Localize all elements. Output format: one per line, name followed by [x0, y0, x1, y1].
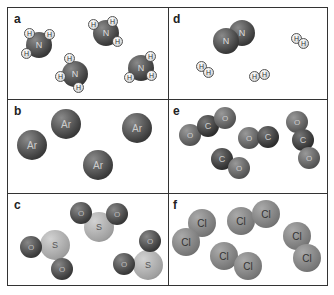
atom-h: H: [203, 67, 214, 78]
panel-label-c: c: [14, 198, 21, 212]
divider-horizontal-2: [8, 193, 327, 194]
atom-o: O: [214, 107, 236, 129]
atom-h: H: [107, 16, 118, 27]
atom-o: O: [113, 253, 135, 275]
atom-h: H: [145, 51, 156, 62]
atom-n: N: [213, 28, 239, 54]
atom-cl: Cl: [227, 207, 255, 235]
atom-cl: Cl: [234, 252, 262, 280]
atom-s: S: [133, 250, 163, 280]
atom-ar: Ar: [122, 113, 152, 143]
divider-vertical: [168, 8, 169, 285]
atom-o: O: [51, 258, 73, 280]
atom-o: O: [70, 202, 92, 224]
atom-cl: Cl: [172, 228, 200, 256]
panel-label-a: a: [14, 12, 21, 26]
atom-h: H: [112, 36, 123, 47]
panel-label-e: e: [173, 104, 180, 118]
atom-ar: Ar: [17, 130, 47, 160]
atom-h: H: [24, 28, 35, 39]
atom-o: O: [139, 230, 161, 252]
panel-label-d: d: [173, 12, 180, 26]
atom-o: O: [228, 157, 250, 179]
panel-label-f: f: [173, 198, 177, 212]
atom-h: H: [124, 72, 135, 83]
atom-h: H: [259, 69, 270, 80]
atom-s: S: [40, 230, 70, 260]
atom-h: H: [44, 29, 55, 40]
atom-h: H: [21, 48, 32, 59]
atom-ar: Ar: [83, 150, 113, 180]
divider-horizontal-1: [8, 99, 327, 100]
atom-h: H: [64, 53, 75, 64]
atom-c: C: [257, 126, 279, 148]
atom-h: H: [298, 38, 309, 49]
panel-label-b: b: [14, 104, 21, 118]
atom-cl: Cl: [252, 200, 280, 228]
atom-ar: Ar: [51, 109, 81, 139]
atom-h: H: [73, 82, 84, 93]
atom-h: H: [146, 70, 157, 81]
atom-o: O: [20, 236, 42, 258]
atom-o: O: [298, 147, 320, 169]
atom-h: H: [55, 71, 66, 82]
atom-cl: Cl: [293, 244, 321, 272]
atom-o: O: [106, 203, 128, 225]
atom-h: H: [88, 19, 99, 30]
